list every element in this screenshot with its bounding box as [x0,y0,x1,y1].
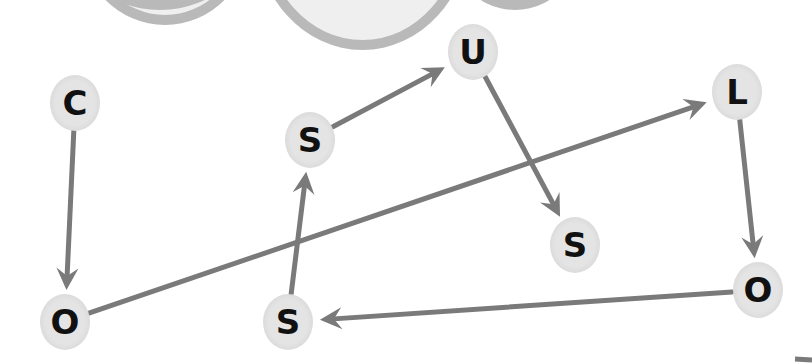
node-letter: O [51,305,80,339]
node-letter: U [459,35,487,69]
letter-node: O [733,262,783,318]
node-letter: C [63,86,88,120]
arrow-edge [90,107,694,313]
letter-node: S [550,217,600,273]
arrow-layer [0,0,812,364]
node-letter: L [726,75,748,109]
letter-node: O [40,294,90,350]
letter-node: U [448,24,498,80]
letter-node: S [263,294,313,350]
letter-node: L [712,64,762,120]
arrow-edge [485,77,553,205]
arrow-edge [334,292,732,319]
diagram-canvas: C O S U L S O S [0,0,812,364]
arrow-edge [333,74,433,127]
node-letter: O [744,273,773,307]
letter-node: S [285,112,335,168]
letter-node: C [50,75,100,131]
arrow-edge [67,131,74,276]
arrow-edge-partial [795,359,812,360]
node-letter: S [563,228,588,262]
arrow-edge [740,120,753,244]
node-letter: S [276,305,301,339]
node-letter: S [298,123,323,157]
